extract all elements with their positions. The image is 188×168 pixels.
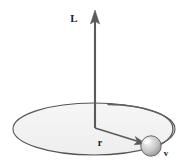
physics-figure-canvas: L r v	[0, 0, 188, 168]
particle-sphere	[141, 136, 161, 156]
label-angular-momentum: L	[70, 12, 77, 24]
label-radius: r	[98, 137, 103, 148]
label-velocity: v	[164, 148, 169, 158]
angular-momentum-diagram: L r v	[0, 0, 188, 168]
